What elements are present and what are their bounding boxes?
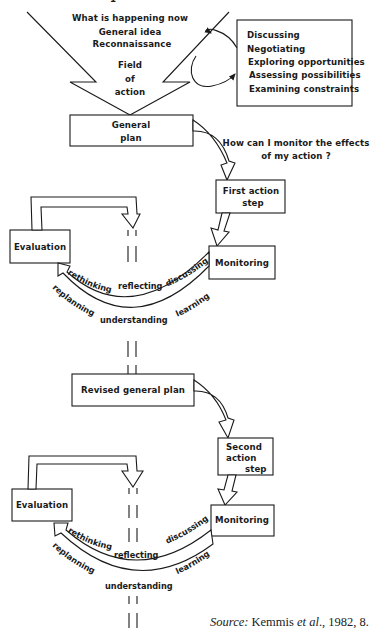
cycle-1: General plan How can I monitor the effec…	[10, 115, 369, 374]
center-dashed-line-2	[129, 488, 137, 542]
action-label: action	[115, 87, 146, 97]
center-dashed-line	[128, 230, 136, 262]
activity-item: Exploring opportunities	[248, 57, 365, 67]
general-idea-label: General idea	[99, 27, 162, 37]
evaluation-label-2: Evaluation	[16, 500, 68, 510]
action-research-diagram: 1 What is happening now General idea Rec…	[0, 0, 370, 639]
activity-item: Examining constraints	[249, 84, 359, 94]
monitoring-label: Monitoring	[215, 258, 269, 268]
arc-word-learning: learning	[174, 291, 211, 319]
source-label: Source:	[210, 615, 248, 629]
evaluation-label: Evaluation	[14, 242, 66, 252]
general-plan-label: plan	[120, 133, 141, 143]
arc-word-reflecting: reflecting	[118, 281, 163, 291]
activity-item: Negotiating	[247, 44, 305, 54]
activity-item: Assessing possibilities	[249, 70, 361, 80]
action-to-monitoring-arrow	[211, 213, 230, 246]
reconnaissance-loop	[191, 29, 237, 86]
revised-plan-to-action-arrow	[194, 380, 234, 438]
of-label: of	[125, 74, 135, 84]
what-is-happening-label: What is happening now	[72, 13, 188, 23]
first-action-step-box	[216, 180, 285, 213]
source-rest: ., 1982, 8.	[319, 615, 369, 629]
bottom-dashed-line	[129, 596, 137, 628]
monitor-question: How can I monitor the effects	[223, 138, 370, 148]
general-plan-label: General	[112, 120, 151, 130]
activity-item: Discussing	[247, 30, 300, 40]
arc-word-reflecting: reflecting	[114, 550, 159, 560]
source-caption: Source: Kemmis et al., 1982, 8.	[210, 615, 369, 629]
second-action-step-label: action	[226, 453, 257, 463]
evaluation-loop-arrow	[31, 197, 140, 230]
plan-to-action-arrow	[193, 120, 235, 180]
second-action-to-monitoring-arrow	[218, 475, 237, 505]
cycle-2: Revised general plan Second action step …	[12, 374, 274, 628]
cut-off-text: 1	[110, 0, 116, 4]
connector-dashed-line	[128, 341, 136, 374]
second-action-step-label: step	[245, 464, 267, 474]
arc-word-understanding: understanding	[105, 581, 173, 591]
reconnaissance-label: Reconnaissance	[93, 39, 172, 49]
first-action-step-label: First action	[223, 186, 279, 196]
source-etal: et al	[297, 615, 319, 629]
field-label: Field	[118, 60, 142, 70]
second-action-step-label: Second	[226, 442, 262, 452]
monitor-question: of my action ?	[261, 151, 331, 161]
field-of-action-labels: What is happening now General idea Recon…	[72, 13, 188, 97]
monitoring-label-2: Monitoring	[215, 515, 269, 525]
first-action-step-label: step	[242, 198, 264, 208]
arc-word-understanding: understanding	[100, 315, 168, 325]
source-authors: Kemmis	[252, 615, 294, 629]
revised-general-plan-label: Revised general plan	[81, 385, 185, 395]
evaluation-loop-arrow-2	[28, 456, 143, 489]
